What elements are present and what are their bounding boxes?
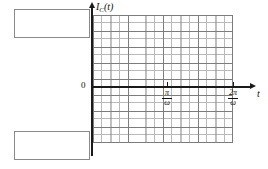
origin-label: 0 (81, 80, 86, 90)
x-tick-pi-over-omega (167, 82, 168, 87)
x-axis-label: t (257, 88, 260, 99)
tick-label-denominator: ω (221, 99, 245, 108)
y-axis-label-argument: (t) (104, 1, 113, 12)
grid-border (93, 15, 233, 143)
answer-box-top[interactable] (14, 9, 90, 38)
x-tick-label-2pi-over-omega: 2π ω (221, 89, 245, 108)
x-axis-line (91, 86, 252, 88)
capacitor-current-graph-figure: IC(t) 0 t π ω 2π ω (0, 0, 268, 169)
y-axis-line (91, 6, 93, 156)
x-axis-arrow-icon (250, 83, 256, 89)
y-axis-arrow-icon (89, 2, 95, 8)
x-tick-label-pi-over-omega: π ω (155, 89, 179, 108)
plot-grid (93, 15, 233, 143)
tick-label-numerator: 2π (221, 89, 245, 98)
answer-box-bottom[interactable] (14, 131, 90, 160)
y-axis-label: IC(t) (96, 1, 113, 14)
tick-label-denominator: ω (155, 99, 179, 108)
tick-label-numerator: π (155, 89, 179, 98)
x-tick-2pi-over-omega (233, 82, 234, 87)
